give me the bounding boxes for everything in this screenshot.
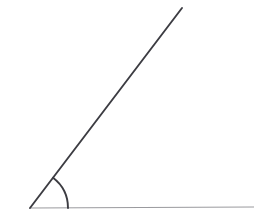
canvas-background [0, 0, 254, 211]
angle-diagram-svg [0, 0, 254, 211]
figure-canvas [0, 0, 254, 211]
